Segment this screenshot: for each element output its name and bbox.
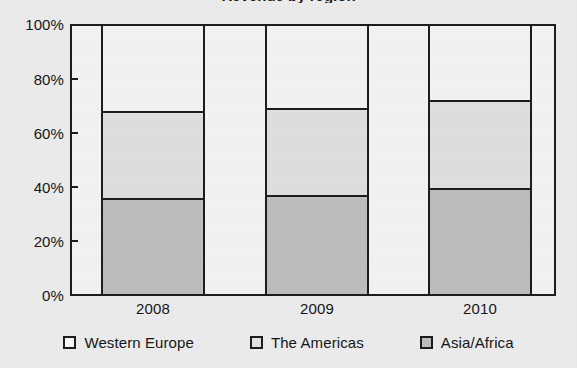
y-tick-label-20: 20% bbox=[0, 233, 64, 250]
bar-segment-2009-the-americas bbox=[265, 108, 369, 197]
bar-segment-2010-asia-africa bbox=[428, 188, 532, 296]
legend-label-western-europe: Western Europe bbox=[84, 334, 194, 351]
legend-swatch-icon-the-americas bbox=[250, 336, 263, 349]
legend-swatch-icon-western-europe bbox=[63, 336, 76, 349]
legend-label-the-americas: The Americas bbox=[271, 334, 364, 351]
legend-item-asia-africa: Asia/Africa bbox=[420, 334, 514, 351]
y-tick-mark-60 bbox=[70, 132, 78, 134]
bar-segment-2010-the-americas bbox=[428, 100, 532, 190]
y-tick-mark-20 bbox=[70, 240, 78, 242]
x-tick-label-2010: 2010 bbox=[420, 300, 540, 317]
bar-segment-2009-asia-africa bbox=[265, 195, 369, 296]
bar-segment-2009-western-europe bbox=[265, 24, 369, 110]
bar-segment-2008-western-europe bbox=[101, 24, 205, 113]
y-tick-mark-80 bbox=[70, 78, 78, 80]
y-tick-mark-40 bbox=[70, 186, 78, 188]
bar-segment-2010-western-europe bbox=[428, 24, 532, 102]
plot-area bbox=[70, 24, 556, 296]
x-tick-label-2008: 2008 bbox=[93, 300, 213, 317]
y-tick-label-0: 0% bbox=[0, 287, 64, 304]
y-tick-label-40: 40% bbox=[0, 179, 64, 196]
legend-swatch-icon-asia-africa bbox=[420, 336, 433, 349]
x-tick-label-2009: 2009 bbox=[257, 300, 377, 317]
legend-label-asia-africa: Asia/Africa bbox=[441, 334, 514, 351]
chart-legend: Western Europe The Americas Asia/Africa bbox=[0, 334, 577, 351]
bar-segment-2008-the-americas bbox=[101, 111, 205, 200]
stacked-bar-chart: Revenue by region 100% 80% 60% 40% 20% 0… bbox=[0, 0, 577, 368]
legend-item-the-americas: The Americas bbox=[250, 334, 364, 351]
bar-segment-2008-asia-africa bbox=[101, 198, 205, 296]
y-tick-label-100: 100% bbox=[0, 16, 64, 33]
legend-item-western-europe: Western Europe bbox=[63, 334, 194, 351]
y-tick-label-60: 60% bbox=[0, 125, 64, 142]
y-tick-label-80: 80% bbox=[0, 71, 64, 88]
